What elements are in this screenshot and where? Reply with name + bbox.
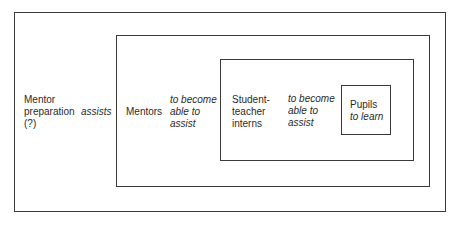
label-line: (?) [24,118,75,130]
label-line: Student- [232,94,270,106]
label-line: able to [170,106,217,118]
label-line: interns [232,118,270,130]
pupils-action-label: to learn [350,111,383,123]
student-teacher-interns-label: Student- teacher interns [232,94,270,130]
label-line: to become [170,94,217,106]
label-line: teacher [232,106,270,118]
label-line: Mentors [126,106,162,118]
assists-label: assists [81,106,112,118]
label-line: to become [288,93,335,105]
label-line: assist [170,118,217,130]
student-teacher-action-label: to become able to assist [288,93,335,129]
label-line: preparation [24,106,75,118]
label-line: Pupils [350,99,377,111]
label-line: able to [288,105,335,117]
label-line: assists [81,106,112,118]
label-line: to learn [350,111,383,123]
mentor-preparation-label: Mentor preparation (?) [24,94,75,130]
label-line: assist [288,117,335,129]
label-line: Mentor [24,94,75,106]
pupils-label: Pupils [350,99,377,111]
mentors-action-label: to become able to assist [170,94,217,130]
mentors-label: Mentors [126,106,162,118]
